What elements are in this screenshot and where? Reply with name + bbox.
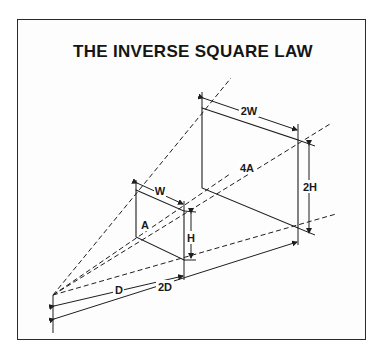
- 2d-dimension-line: [54, 242, 297, 319]
- label-large-width: 2W: [241, 105, 258, 117]
- label-small-area: A: [141, 219, 149, 231]
- ray-upper-right: [53, 124, 330, 295]
- label-near-distance: D: [115, 284, 123, 296]
- label-small-height: H: [187, 232, 195, 244]
- label-far-distance: 2D: [158, 281, 172, 293]
- label-large-height: 2H: [303, 181, 317, 193]
- label-large-area: 4A: [240, 162, 254, 174]
- inverse-square-diagram: W H A 2W 2H 4A D 2D: [0, 0, 386, 364]
- projection-rays: [53, 78, 336, 295]
- label-small-width: W: [155, 185, 166, 197]
- ray-top: [53, 78, 231, 295]
